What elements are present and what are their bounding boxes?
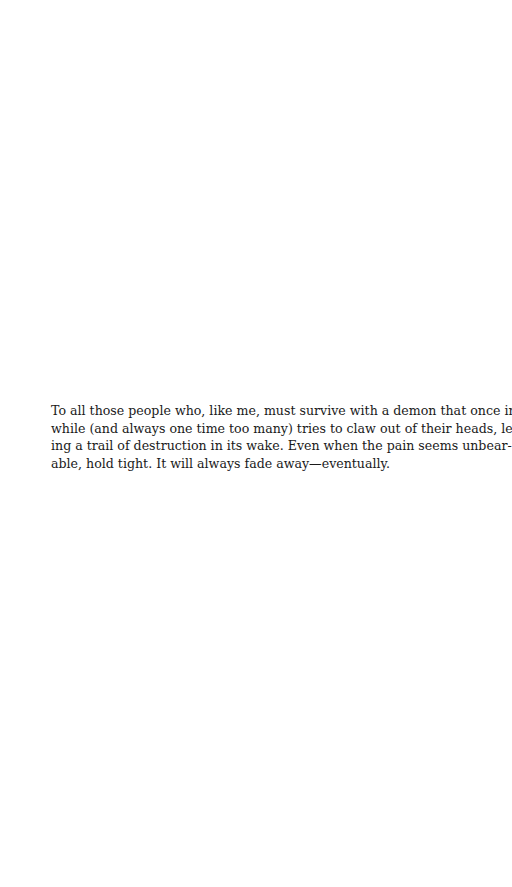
dedication-line: ing a trail of destruction in its wake. … xyxy=(51,437,464,455)
dedication-line: while (and always one time too many) tri… xyxy=(51,420,464,438)
dedication-line: able, hold tight. It will always fade aw… xyxy=(51,455,464,473)
dedication-paragraph: To all those people who, like me, must s… xyxy=(51,402,464,472)
book-page: To all those people who, like me, must s… xyxy=(0,0,512,887)
dedication-line: To all those people who, like me, must s… xyxy=(51,402,464,420)
